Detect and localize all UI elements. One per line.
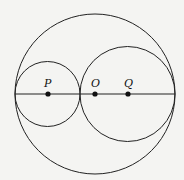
label-p: P: [43, 77, 52, 90]
circle-diagram: P O Q: [0, 0, 184, 180]
point-o: [92, 91, 97, 96]
label-o: O: [91, 77, 100, 90]
point-q: [125, 91, 130, 96]
point-p: [45, 91, 50, 96]
label-q: Q: [124, 77, 133, 90]
